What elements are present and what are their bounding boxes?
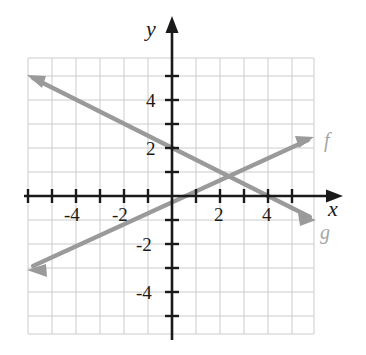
x-axis-label: x: [328, 198, 338, 220]
arrowhead-g-left: [27, 75, 46, 88]
function-label-f: f: [324, 130, 330, 150]
y-axis-label: y: [146, 18, 156, 40]
x-tick-label-pos4: 4: [262, 205, 272, 224]
x-tick-label-neg4: -4: [64, 205, 80, 224]
x-tick-label-neg2: -2: [112, 205, 128, 224]
y-tick-label-neg2: -2: [136, 235, 152, 254]
function-label-g: g: [320, 222, 330, 242]
coordinate-plane-svg: [0, 0, 366, 355]
y-tick-label-neg4: -4: [136, 283, 152, 302]
y-axis-arrowhead: [166, 16, 179, 33]
x-tick-label-pos2: 2: [214, 205, 224, 224]
y-tick-label-pos4: 4: [146, 91, 156, 110]
graph-figure: y x f g -4 -2 2 4 4 2 -2 -4: [0, 0, 366, 355]
y-tick-label-pos2: 2: [146, 139, 156, 158]
